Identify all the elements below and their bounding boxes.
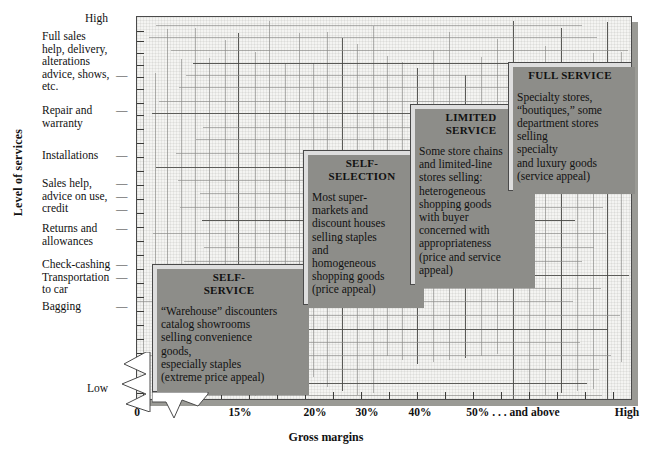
x-tick-label-30: 30% xyxy=(356,406,379,418)
y-dash-5: — xyxy=(116,190,134,203)
x-axis-tick xyxy=(529,392,530,399)
y-dash-4: — xyxy=(116,177,134,190)
y-axis-tick xyxy=(137,227,144,228)
y-axis-tick xyxy=(137,311,144,312)
y-axis-tick xyxy=(137,157,144,158)
y-axis-tick xyxy=(137,53,144,54)
y-axis-tick xyxy=(137,89,144,90)
y-dash-9: — xyxy=(116,271,134,284)
x-tick-label-40: 40% xyxy=(409,406,432,418)
y-dash-10: — xyxy=(116,300,134,313)
box-full-service-title: FULL SERVICE xyxy=(517,69,623,82)
x-axis-tick xyxy=(417,392,418,399)
x-tick-label-15: 15% xyxy=(229,406,252,418)
box-full-service-body: Specialty stores, “boutiques,” some depa… xyxy=(517,91,623,183)
x-axis-tick xyxy=(557,392,558,399)
y-axis-tick xyxy=(137,339,144,340)
x-axis-title: Gross margins xyxy=(0,430,652,445)
y-axis-tick xyxy=(137,283,144,284)
y-axis-tick xyxy=(137,171,144,172)
y-dash-3: — xyxy=(116,149,134,162)
y-dash-2: — xyxy=(116,104,134,117)
x-axis-tick xyxy=(585,392,586,399)
diagram-canvas: Level of services High Low Full sales he… xyxy=(0,0,652,457)
x-axis-tick xyxy=(501,392,502,399)
y-dash-1: — xyxy=(116,69,134,82)
x-axis-tick xyxy=(473,392,474,399)
box-self-service-title: SELF- SERVICE xyxy=(161,271,297,296)
x-axis-break-marker xyxy=(152,392,214,424)
y-dash-6: — xyxy=(116,203,134,216)
box-self-service-body: “Warehouse” discounters catalog showroom… xyxy=(161,305,297,384)
y-dash-7: — xyxy=(116,222,134,235)
y-axis-tick xyxy=(137,241,144,242)
y-axis-tick xyxy=(137,143,144,144)
x-axis-tick xyxy=(613,392,614,399)
box-self-selection-body: Most super- markets and discount houses … xyxy=(312,191,412,297)
y-axis-tick xyxy=(137,65,144,66)
x-axis-tick xyxy=(361,392,362,399)
y-axis-tick xyxy=(137,297,144,298)
y-axis-tick xyxy=(137,255,144,256)
x-axis-tick xyxy=(333,392,334,399)
x-tick-label-20: 20% xyxy=(304,406,327,418)
x-axis-tick xyxy=(445,392,446,399)
y-axis-tick xyxy=(137,129,144,130)
y-axis-break-marker xyxy=(106,352,152,412)
x-axis-tick-labels: 0 15% 20% 30% 40% 50% . . . and above Hi… xyxy=(0,404,652,424)
x-tick-label-high: High xyxy=(615,406,639,418)
box-self-selection[interactable]: SELF- SELECTION Most super- markets and … xyxy=(303,150,421,305)
y-axis-tick xyxy=(137,103,144,104)
y-axis-tick xyxy=(137,199,144,200)
x-tick-label-50plus: 50% . . . and above xyxy=(466,406,559,418)
y-axis-tick xyxy=(137,325,144,326)
y-axis-tick xyxy=(137,213,144,214)
box-full-service[interactable]: FULL SERVICE Specialty stores, “boutique… xyxy=(508,62,632,191)
box-self-service[interactable]: SELF- SERVICE “Warehouse” discounters ca… xyxy=(152,264,306,392)
y-axis-tick xyxy=(137,31,144,32)
y-axis-tick xyxy=(137,41,144,42)
y-dash-8: — xyxy=(116,258,134,271)
x-axis-tick xyxy=(389,392,390,399)
y-axis-tick xyxy=(137,115,144,116)
y-axis-tick xyxy=(137,185,144,186)
y-axis-tick xyxy=(137,77,144,78)
y-axis-tick xyxy=(137,269,144,270)
box-self-selection-title: SELF- SELECTION xyxy=(312,157,412,182)
